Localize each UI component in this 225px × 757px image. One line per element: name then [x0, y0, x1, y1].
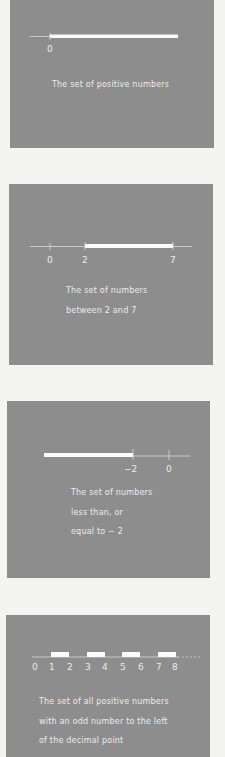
highlight-bar: [44, 453, 133, 457]
caption-line: The set of positive numbers: [52, 75, 169, 95]
tick-label-1: 1: [49, 662, 55, 672]
tick-label-7: 7: [170, 255, 176, 265]
tick-label-7: 7: [156, 662, 162, 672]
tick-label-6: 6: [138, 662, 144, 672]
highlight-block-3-4: [87, 652, 105, 657]
highlight-block-5-6: [122, 652, 140, 657]
number-line-positive: 0: [10, 0, 214, 148]
caption-line: of the decimal point: [39, 731, 169, 751]
panel-less-or-equal-minus-2: −2 0 The set of numbers less than, or eq…: [7, 401, 210, 578]
tick-label-0: 0: [32, 662, 38, 672]
caption-line: with an odd number to the left: [39, 712, 169, 732]
caption: The set of numbers between 2 and 7: [66, 281, 147, 320]
caption: The set of positive numbers: [52, 75, 169, 95]
highlight-bar: [85, 244, 173, 248]
highlight-block-7-8: [158, 652, 176, 657]
highlight-block-1-2: [51, 652, 69, 657]
tick-label-3: 3: [85, 662, 91, 672]
caption-line: The set of numbers: [71, 483, 152, 503]
caption-line: between 2 and 7: [66, 301, 147, 321]
tick-label-0: 0: [47, 44, 53, 54]
number-line-between: 0 2 7: [9, 184, 213, 365]
tick-label-4: 4: [102, 662, 108, 672]
tick-label-2: 2: [82, 255, 88, 265]
caption-line: The set of all positive numbers: [39, 692, 169, 712]
panel-between-2-and-7: 0 2 7 The set of numbers between 2 and 7: [9, 184, 213, 365]
tick-label-2: 2: [67, 662, 73, 672]
tick-label-minus-2: −2: [124, 464, 137, 474]
panel-positive-numbers: 0 The set of positive numbers: [10, 0, 214, 148]
caption: The set of all positive numbers with an …: [39, 692, 169, 751]
panel-odd-integer-part: 0 1 2 3 4 5 6 7 8 The set of all positiv…: [6, 615, 210, 757]
tick-label-5: 5: [120, 662, 126, 672]
caption-line: equal to − 2: [71, 522, 152, 542]
caption: The set of numbers less than, or equal t…: [71, 483, 152, 542]
caption-line: less than, or: [71, 503, 152, 523]
tick-label-0: 0: [166, 464, 172, 474]
tick-label-8: 8: [172, 662, 178, 672]
tick-label-0: 0: [47, 255, 53, 265]
caption-line: The set of numbers: [66, 281, 147, 301]
highlight-bar: [50, 35, 178, 39]
